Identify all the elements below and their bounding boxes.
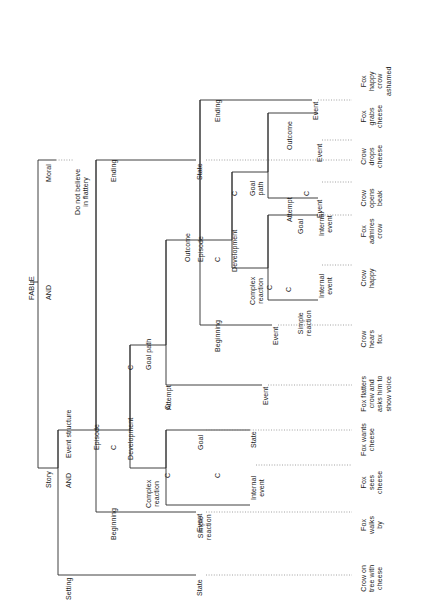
node-complex-reaction-outer: Complex reaction <box>145 480 161 508</box>
node-root-fable: FABLE <box>28 276 36 300</box>
node-attempt-inner: Attempt <box>286 197 294 222</box>
node-development-outer: Development <box>127 418 135 460</box>
node-event-structure: Event structure <box>65 409 73 458</box>
node-moral-text: Do not believe in flattery <box>74 169 90 215</box>
node-c-1: C <box>110 445 118 450</box>
node-state-ending-outer: State <box>196 163 204 180</box>
node-internal-event-inner-1: Internal event <box>318 274 334 298</box>
node-event-attempt-outer: Event <box>262 387 270 405</box>
node-internal-event-outer: Internal event <box>250 476 266 500</box>
leaf-internal-event-outer: Fox sees cheese <box>360 471 385 494</box>
node-state-setting: State <box>196 579 204 596</box>
leaf-event-outcome-inner: Crow drops cheese <box>360 145 385 168</box>
node-event-beginning-inner: Event <box>272 327 280 345</box>
node-simple-reaction-inner: Simple reaction <box>297 310 313 336</box>
node-complex-reaction-inner: Complex reaction <box>249 277 265 305</box>
node-state-goal-outer: State <box>250 431 258 448</box>
node-beginning-inner: Beginning <box>214 320 222 352</box>
node-event-attempt-inner: Event <box>316 200 324 218</box>
node-outcome-outer: Outcome <box>184 233 192 262</box>
node-setting: Setting <box>65 578 73 601</box>
leaf-event-attempt-inner: Crow opens beak <box>360 188 385 208</box>
node-development-inner: Development <box>231 230 239 272</box>
node-c-4: C <box>164 473 172 478</box>
node-episode-inner: Episode <box>197 236 205 262</box>
node-goal-inner: Goal <box>297 219 305 234</box>
node-moral: Moral <box>45 164 53 182</box>
node-goal-outer: Goal <box>197 435 205 450</box>
node-episode-outer: Episode <box>93 424 101 450</box>
node-beginning-outer: Beginning <box>110 508 118 540</box>
story-grammar-tree: FABLE AND Moral Do not believe in flatte… <box>0 0 430 611</box>
leaf-state-ending: Fox happy crow ashamed <box>360 67 393 97</box>
node-attempt-outer: Attempt <box>165 385 173 410</box>
node-goal-path-inner: Goal path <box>249 181 265 196</box>
leaf-event-ending-inner: Fox grabs cheese <box>360 105 385 128</box>
node-c-7: C <box>231 191 239 196</box>
node-ending-inner: Ending <box>214 100 222 122</box>
node-and-1: AND <box>45 285 53 300</box>
node-event-ending-inner: Event <box>312 102 320 120</box>
node-c-9: C <box>285 287 293 292</box>
node-and-2: AND <box>65 473 73 488</box>
leaf-event-attempt-outer: Fox flatters crow and asks him to show v… <box>360 376 393 413</box>
node-outcome-inner: Outcome <box>286 121 294 150</box>
leaf-event-beginning-outer: Fox walks by <box>360 516 385 534</box>
node-c-10: C <box>303 191 311 196</box>
leaf-internal-event-1: Crow happy <box>360 268 376 288</box>
node-c-5: C <box>214 473 222 478</box>
node-simple-reaction-outer: Simple reaction <box>197 514 213 540</box>
leaf-event-beginning-inner: Crow hears fox <box>360 330 385 348</box>
node-event-outcome-inner: Event <box>316 144 324 162</box>
node-goal-path-outer: Goal path <box>145 339 153 370</box>
node-story: Story <box>45 471 53 488</box>
leaf-internal-event-2: Fox admires crow <box>360 218 385 244</box>
node-c-6: C <box>214 257 222 262</box>
node-c-2: C <box>127 365 135 370</box>
node-c-8: C <box>266 285 274 290</box>
node-ending-outer: Ending <box>110 160 118 182</box>
leaf-state-goal-outer: Fox wants cheese <box>360 423 376 456</box>
leaf-state-setting: Crow on tree with cheese <box>360 565 385 592</box>
